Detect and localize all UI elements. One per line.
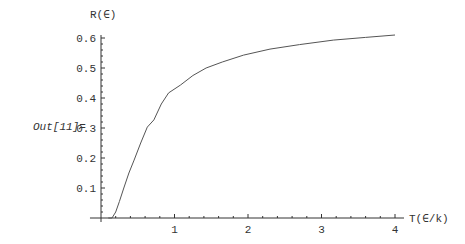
y-tick-label: 0.5 — [76, 63, 96, 75]
y-tick-label: 0.2 — [76, 153, 96, 165]
x-tick-label: 3 — [318, 224, 325, 236]
output-cell-label: Out[11]= — [33, 121, 86, 133]
y-axis-label: R(∈) — [90, 9, 116, 21]
x-tick-label: 1 — [171, 224, 178, 236]
x-tick-label: 4 — [392, 224, 399, 236]
tick-labels: 12340.10.20.30.40.50.6 — [76, 33, 399, 236]
y-tick-label: 0.1 — [76, 183, 96, 195]
axes — [90, 35, 404, 222]
y-tick-label: 0.6 — [76, 33, 96, 45]
series-line-R — [108, 35, 395, 218]
y-tick-label: 0.4 — [76, 93, 96, 105]
ticks — [101, 38, 395, 218]
x-tick-label: 2 — [245, 224, 252, 236]
x-axis-label: T(∈/k) — [409, 213, 449, 225]
